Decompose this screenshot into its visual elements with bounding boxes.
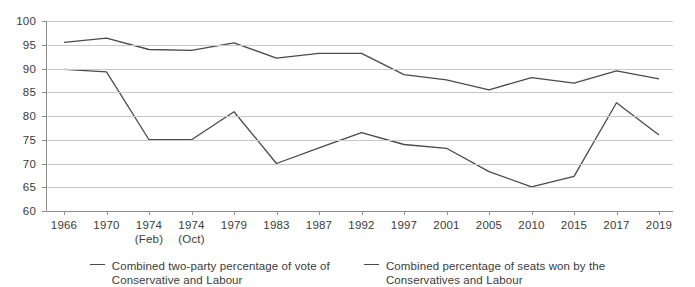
legend-line-icon (364, 259, 379, 270)
gridline-65 (46, 187, 673, 188)
plot-area: 1009590858075706560 (0, 0, 695, 232)
x-axis-tick-7 (362, 211, 363, 215)
x-axis-tick-10 (489, 211, 490, 215)
x-axis-tick-6 (319, 211, 320, 215)
gridline-70 (46, 164, 673, 165)
x-tick-label-8: 1997 (391, 218, 417, 232)
x-axis-tick-12 (574, 211, 575, 215)
x-axis-tick-0 (64, 211, 65, 215)
y-tick-label-65: 65 (23, 181, 36, 193)
x-axis: 196619701974(Feb)1974(Oct)19791983198719… (46, 218, 673, 262)
y-tick-label-70: 70 (23, 158, 36, 170)
gridline-60 (46, 211, 673, 212)
x-tick-label-0: 1966 (51, 218, 77, 232)
y-axis: 1009590858075706560 (0, 0, 40, 232)
x-tick-label-9: 2001 (433, 218, 459, 232)
x-tick-label-14: 2019 (646, 218, 672, 232)
x-axis-tick-9 (447, 211, 448, 215)
legend-label: Combined two-party percentage of vote of… (112, 259, 330, 287)
x-tick-label-1: 1970 (93, 218, 119, 232)
legend-item-0[interactable]: Combined two-party percentage of vote of… (90, 259, 330, 287)
line-chart: 1009590858075706560 196619701974(Feb)197… (0, 0, 695, 287)
x-tick-label-11: 2010 (518, 218, 544, 232)
legend-label: Combined percentage of seats won by theC… (386, 259, 605, 287)
x-tick-label-10: 2005 (476, 218, 502, 232)
x-axis-tick-5 (277, 211, 278, 215)
gridline-75 (46, 140, 673, 141)
y-axis-tick-60 (42, 211, 46, 212)
x-tick-label-6: 1987 (306, 218, 332, 232)
y-axis-line (46, 21, 47, 211)
x-tick-label-3: 1974(Oct) (178, 218, 205, 246)
x-axis-tick-11 (532, 211, 533, 215)
x-tick-label-7: 1992 (348, 218, 374, 232)
y-tick-label-80: 80 (23, 110, 36, 122)
x-axis-tick-4 (234, 211, 235, 215)
x-tick-label-12: 2015 (561, 218, 587, 232)
x-axis-tick-1 (107, 211, 108, 215)
x-axis-tick-8 (404, 211, 405, 215)
x-tick-label-2: 1974(Feb) (135, 218, 163, 246)
y-tick-label-60: 60 (23, 205, 36, 217)
x-axis-tick-2 (149, 211, 150, 215)
x-axis-tick-13 (617, 211, 618, 215)
series-line-1 (64, 69, 659, 186)
gridline-95 (46, 45, 673, 46)
gridline-90 (46, 69, 673, 70)
gridline-85 (46, 92, 673, 93)
legend-item-1[interactable]: Combined percentage of seats won by theC… (364, 259, 605, 287)
legend-line-icon (90, 259, 105, 270)
x-tick-label-5: 1983 (263, 218, 289, 232)
y-tick-label-75: 75 (23, 134, 36, 146)
x-axis-tick-3 (192, 211, 193, 215)
chart-legend: Combined two-party percentage of vote of… (0, 259, 695, 287)
x-tick-label-4: 1979 (221, 218, 247, 232)
y-tick-label-95: 95 (23, 39, 36, 51)
y-tick-label-90: 90 (23, 63, 36, 75)
grid-area (46, 0, 673, 232)
x-axis-tick-14 (659, 211, 660, 215)
y-tick-label-100: 100 (16, 15, 36, 27)
x-tick-label-13: 2017 (603, 218, 629, 232)
y-tick-label-85: 85 (23, 86, 36, 98)
gridline-80 (46, 116, 673, 117)
gridline-100 (46, 21, 673, 22)
